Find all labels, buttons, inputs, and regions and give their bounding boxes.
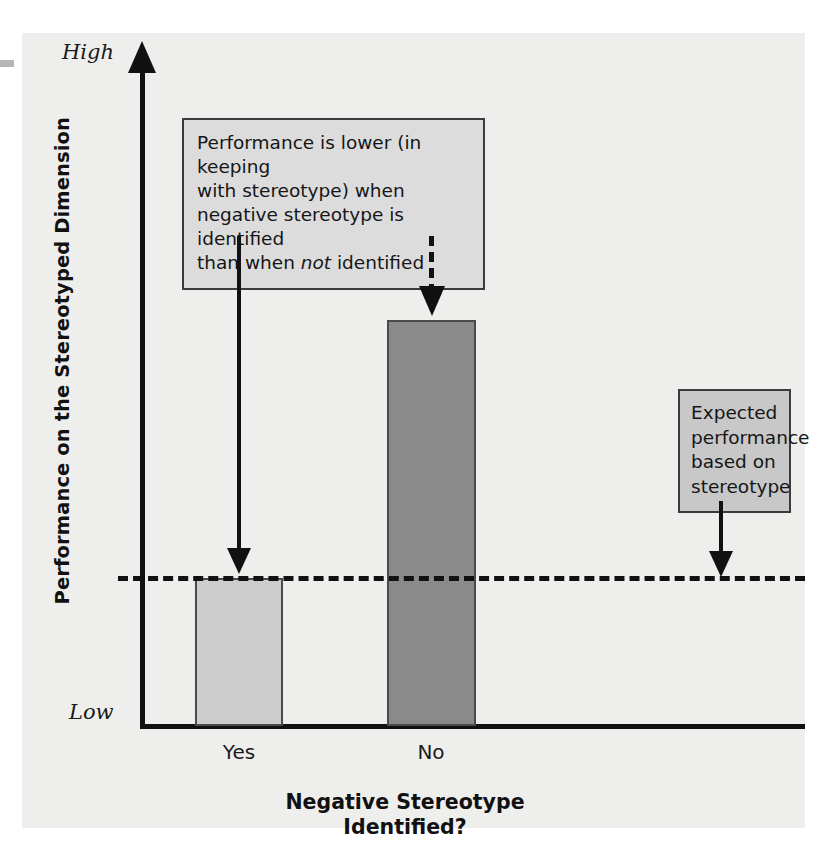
callout-expected-performance: Expected performance based on stereotype: [678, 389, 791, 513]
y-axis-line: [140, 68, 145, 728]
page-margin-mark: [0, 60, 14, 67]
arrow-to-yes-bar-shaft: [237, 236, 241, 556]
arrow-to-reference-line-head-icon: [709, 551, 733, 577]
y-axis-title: Performance on the Stereotyped Dimension: [51, 145, 74, 605]
y-axis-low-label: Low: [69, 700, 114, 724]
callout-performance-line4-emphasis: not: [301, 252, 331, 273]
callout-expected-line2: performance: [691, 427, 809, 448]
callout-performance-lower: Performance is lower (in keeping with st…: [182, 118, 485, 290]
callout-expected-line3: based on: [691, 451, 776, 472]
x-axis-title: Negative Stereotype Identified?: [140, 790, 670, 840]
callout-performance-line1: Performance is lower (in keeping: [197, 132, 421, 177]
callout-expected-line1: Expected: [691, 402, 777, 423]
arrow-to-yes-bar-head-icon: [227, 548, 251, 574]
callout-expected-line4: stereotype: [691, 476, 791, 497]
y-axis-high-label: High: [62, 40, 114, 64]
callout-performance-line2: with stereotype) when: [197, 180, 405, 201]
arrow-to-no-bar-head-icon: [419, 286, 445, 316]
y-axis-arrow-icon: [128, 41, 156, 73]
callout-performance-line3: negative stereotype is identified: [197, 204, 404, 249]
bar-yes: [195, 578, 283, 726]
bar-no: [387, 320, 476, 726]
x-axis-title-line2: Identified?: [140, 815, 670, 840]
expected-performance-reference-line: [118, 576, 805, 581]
bar-chart-figure: High Low Performance on the Stereotyped …: [22, 33, 805, 828]
arrow-to-reference-line-shaft: [719, 501, 723, 556]
callout-performance-line4-post: identified: [331, 252, 424, 273]
category-label-yes: Yes: [179, 740, 299, 764]
callout-performance-line4-pre: than when: [197, 252, 301, 273]
x-axis-title-line1: Negative Stereotype: [140, 790, 670, 815]
category-label-no: No: [371, 740, 491, 764]
